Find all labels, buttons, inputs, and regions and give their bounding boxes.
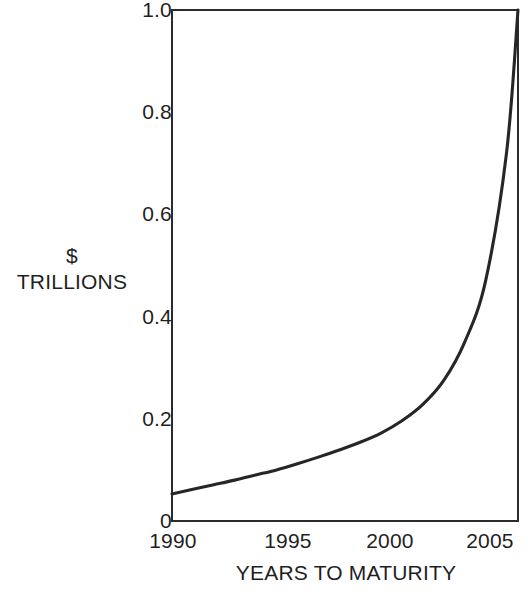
chart-figure: 1.0 0.8 0.6 0.4 0.2 0 1990 1995 2000 200… (0, 0, 528, 600)
y-axis-title-line-1: $ (8, 243, 136, 269)
x-tick-label-2005: 2005 (455, 529, 525, 553)
x-tick-label-2000: 2000 (355, 529, 425, 553)
plot-frame (172, 10, 518, 521)
x-tick-label-1995: 1995 (253, 529, 323, 553)
plot-canvas (0, 0, 528, 600)
y-tick-label-0.8: 0.8 (118, 100, 172, 124)
y-tick-label-0.4: 0.4 (118, 305, 172, 329)
x-tick-label-1990: 1990 (138, 529, 208, 553)
y-tick-label-0.6: 0.6 (118, 202, 172, 226)
y-tick-label-0.2: 0.2 (118, 407, 172, 431)
y-axis-title-line-2: TRILLIONS (8, 269, 136, 295)
y-axis-title: $ TRILLIONS (8, 243, 136, 295)
x-axis-title: YEARS TO MATURITY (172, 561, 520, 585)
data-curve-maturing-debt (172, 10, 518, 494)
y-tick-label-1.0: 1.0 (118, 0, 172, 22)
